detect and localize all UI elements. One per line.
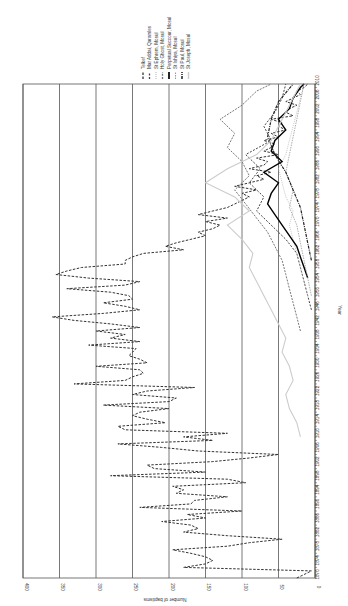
year-tick-label: 2002 [315,103,320,114]
year-tick-label: 1930 [315,357,320,368]
value-tick-label: 0 [316,586,321,589]
value-tick-label: 400 [24,583,29,591]
legend-label: St Joseph, Mosul [186,34,191,69]
value-tick-label: 100 [243,583,248,591]
year-tick-label: 1990 [315,145,320,156]
year-tick-label: 1926 [315,371,320,382]
year-axis-title: Year [337,305,342,315]
year-tick-label: 1998 [315,117,320,128]
year-tick-label: 1886 [315,512,320,523]
year-tick-label: 1938 [315,329,320,340]
year-tick-label: 1874 [315,555,320,566]
value-tick-label: 150 [206,583,211,591]
year-tick-label: 1914 [315,414,320,425]
series-line-st-joseph-mosul [206,84,301,437]
year-tick-label: 1970 [315,216,320,227]
value-tick-label: 250 [133,583,138,591]
year-tick-label: 1882 [315,526,320,537]
year-tick-label: 1906 [315,442,320,453]
value-tick-label: 300 [97,583,102,591]
series-line-holy-ghost-mosul [220,84,300,331]
year-tick-label: 1954 [315,272,320,283]
year-tick-label: 1898 [315,470,320,481]
legend-label: Holy Ghost, Mosul [160,31,165,69]
value-axis-ticks: 050100150200250300350400 [24,583,321,591]
year-tick-label: 1982 [315,174,320,185]
year-tick-label: 1922 [315,385,320,396]
year-tick-label: 1934 [315,343,320,354]
year-tick-label: 1966 [315,230,320,241]
year-axis-ticks: 1870187418781882188618901894189819021906… [315,75,320,580]
legend: TelkefMar Addai, QaramlesSt Ephrem, Mosu… [141,17,192,79]
series-line-st-paul-mosul [268,84,312,260]
legend-label: St Paul, Mosul [180,39,185,69]
value-tick-label: 200 [170,583,175,591]
year-tick-label: 1870 [315,569,320,580]
series-line-st-ishiya-mosul [286,84,312,296]
year-tick-label: 1962 [315,244,320,255]
year-tick-label: 1974 [315,202,320,213]
year-tick-label: 1878 [315,541,320,552]
year-tick-label: 1950 [315,287,320,298]
year-tick-label: 1986 [315,160,320,171]
legend-label: St Ephrem, Mosul [154,32,159,69]
series-line-telkef [52,84,311,578]
year-tick-label: 1918 [315,399,320,410]
legend-label: St Ishiya, Mosul [173,37,178,69]
legend-label: Mar Addai, Qaramles [147,25,152,69]
series-lines [52,84,311,578]
year-tick-label: 1942 [315,315,320,326]
year-tick-label: 1894 [315,484,320,495]
legend-label: Telkef [141,56,146,69]
year-tick-label: 1890 [315,498,320,509]
year-tick-label: 1958 [315,258,320,269]
year-tick-label: 1946 [315,301,320,312]
baptisms-chart: 050100150200250300350400 187018741878188… [0,0,348,606]
year-tick-label: 1978 [315,188,320,199]
value-tick-label: 50 [279,584,284,590]
year-tick-label: 1994 [315,131,320,142]
year-tick-label: 1902 [315,456,320,467]
value-tick-label: 350 [60,583,65,591]
gridlines [23,84,315,578]
year-tick-label: 2006 [315,89,320,100]
year-tick-label: 1910 [315,428,320,439]
legend-label: Perpetual Succour, Mosul [167,17,172,69]
year-tick-label: 2010 [315,75,320,86]
value-axis-title: Number of baptisms [143,597,187,602]
